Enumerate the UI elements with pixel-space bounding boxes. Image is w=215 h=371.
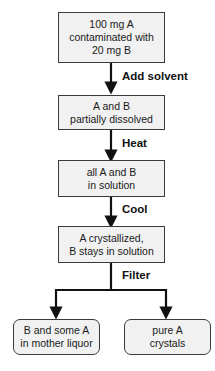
- outcome-box-pure-crystals: pure A crystals: [124, 319, 211, 355]
- outcome-text: crystals: [150, 337, 186, 350]
- action-label-heat: Heat: [122, 137, 147, 149]
- step-box-partially-dissolved: A and B partially dissolved: [58, 95, 165, 130]
- step-text: contaminated with: [69, 31, 154, 44]
- action-label-add-solvent: Add solvent: [122, 70, 188, 82]
- step-text: 20 mg B: [92, 44, 131, 57]
- step-box-in-solution: all A and B in solution: [58, 160, 165, 197]
- action-label-cool: Cool: [122, 203, 148, 215]
- step-text: 100 mg A: [89, 18, 133, 31]
- outcome-box-mother-liquor: B and some A in mother liquor: [13, 319, 100, 355]
- step-text: all A and B: [87, 166, 137, 179]
- step-text: B stays in solution: [69, 245, 154, 258]
- step-box-crystallized: A crystallized, B stays in solution: [58, 226, 165, 263]
- step-text: A and B: [93, 100, 130, 113]
- outcome-text: in mother liquor: [20, 337, 92, 350]
- step-text: partially dissolved: [70, 113, 153, 126]
- outcome-text: B and some A: [24, 324, 89, 337]
- step-text: A crystallized,: [79, 232, 143, 245]
- step-text: in solution: [88, 179, 135, 192]
- outcome-text: pure A: [152, 324, 182, 337]
- step-box-start: 100 mg A contaminated with 20 mg B: [58, 12, 165, 63]
- action-label-filter: Filter: [122, 269, 150, 281]
